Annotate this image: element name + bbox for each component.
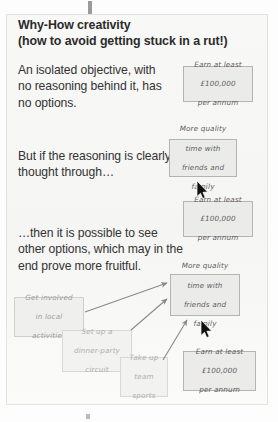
mouse-cursor-icon	[200, 320, 213, 338]
note-line: per annum	[194, 233, 242, 243]
note-line: sports	[129, 391, 158, 401]
scanned-page: Why-How creativity (how to avoid getting…	[0, 0, 278, 422]
note-line: Earn at least	[194, 60, 242, 70]
note-line: time with	[180, 144, 227, 154]
note-earn-at-least-top: Earn at least £100,000 per annum	[183, 66, 253, 102]
note-line: More quality	[180, 124, 227, 134]
mouse-cursor-icon	[196, 181, 209, 199]
headline-line-1: Why-How creativity	[18, 18, 131, 32]
paragraph-reasoning-thought-through: But if the reasoning is clearly thought …	[18, 148, 178, 181]
note-line: in local	[25, 312, 72, 322]
note-more-quality-time-bottom: More quality time with friends and famil…	[170, 274, 240, 316]
crop-tick-bottom-icon	[86, 414, 90, 419]
note-more-quality-time-middle: More quality time with friends and famil…	[169, 139, 237, 177]
note-line: time with	[182, 281, 229, 291]
note-line: £100,000	[196, 366, 244, 376]
note-line: £100,000	[194, 79, 242, 89]
note-line: per annum	[196, 385, 244, 395]
note-line: £100,000	[194, 214, 242, 224]
note-line: Take up	[129, 353, 158, 363]
note-take-up-team-sports: Take up team sports	[120, 357, 168, 397]
note-line: friends and	[180, 163, 227, 173]
note-line: Get involved	[25, 293, 72, 303]
note-earn-at-least-bottom: Earn at least £100,000 per annum	[183, 351, 256, 391]
note-earn-at-least-middle: Earn at least £100,000 per annum	[183, 201, 253, 237]
slide-headline: Why-How creativity (how to avoid getting…	[18, 18, 250, 49]
note-line: friends and	[182, 300, 229, 310]
crop-tick-top-icon	[88, 1, 92, 14]
note-line: team	[129, 372, 158, 382]
note-line: Earn at least	[196, 347, 244, 357]
note-line: circuit	[74, 365, 120, 375]
note-line: More quality	[182, 261, 229, 271]
note-line: per annum	[194, 98, 242, 108]
note-line: Set up a	[74, 327, 120, 337]
note-line: dinner-party	[74, 346, 120, 356]
headline-line-2: (how to avoid getting stuck in a rut!)	[18, 34, 250, 50]
paragraph-isolated-objective: An isolated objective, with no reasoning…	[18, 62, 168, 111]
paragraph-other-options: …then it is possible to see other option…	[18, 225, 188, 274]
